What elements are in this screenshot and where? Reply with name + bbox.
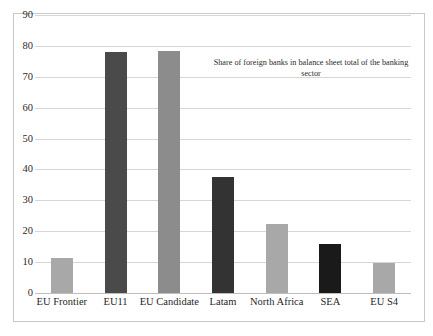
y-tick-label: 80 xyxy=(7,41,33,52)
x-tick-label: EU11 xyxy=(104,296,128,308)
bar xyxy=(373,263,395,293)
y-tick-label: 60 xyxy=(7,102,33,113)
y-axis-tick-labels: 0102030405060708090 xyxy=(5,15,33,293)
y-tick-label: 20 xyxy=(7,226,33,237)
chart-annotation: Share of foreign banks in balance sheet … xyxy=(207,57,415,79)
x-tick-label: EU Candidate xyxy=(140,296,199,308)
x-tick-label: EU S4 xyxy=(370,296,398,308)
bar-chart: 0102030405060708090 EU FrontierEU11EU Ca… xyxy=(0,0,433,336)
x-tick-label: EU Frontier xyxy=(37,296,87,308)
bar xyxy=(266,224,288,293)
y-tick-label: 0 xyxy=(7,288,33,299)
x-tick-label: Latam xyxy=(210,296,237,308)
bar xyxy=(319,244,341,293)
gridline-0 xyxy=(35,293,411,294)
y-tick-label: 30 xyxy=(7,195,33,206)
x-tick-label: North Africa xyxy=(250,296,303,308)
bar xyxy=(158,51,180,293)
y-tick-label: 90 xyxy=(7,10,33,21)
y-tick-label: 40 xyxy=(7,164,33,175)
bar xyxy=(51,258,73,293)
x-axis-tick-labels: EU FrontierEU11EU CandidateLatamNorth Af… xyxy=(35,296,411,316)
y-tick-label: 50 xyxy=(7,133,33,144)
y-tick-label: 10 xyxy=(7,257,33,268)
bar xyxy=(212,177,234,293)
y-tick-label: 70 xyxy=(7,72,33,83)
x-tick-label: SEA xyxy=(321,296,341,308)
bar xyxy=(105,52,127,293)
